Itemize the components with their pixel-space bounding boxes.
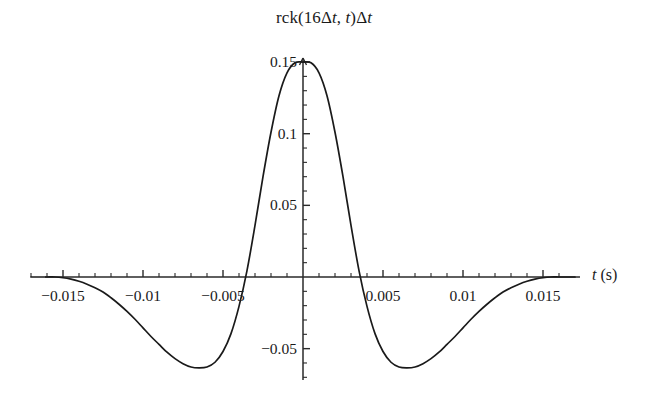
y-tick-label: 0.1 [278,126,297,142]
x-tick-label: −0.015 [41,288,85,304]
x-tick-label: 0.005 [366,288,401,304]
x-axis-label-unit: (s) [600,266,617,283]
plot-canvas [0,0,648,402]
x-axis-label: t (s) [592,266,617,284]
x-tick-label: −0.005 [201,288,245,304]
x-axis-label-var: t [592,266,596,283]
y-tick-label: 0.15 [270,54,297,70]
x-tick-label: −0.01 [125,288,161,304]
y-tick-label: 0.05 [270,198,297,214]
chart-figure: rck(16Δt, t)Δt −0.015−0.01−0.0050.0050.0… [0,0,648,402]
x-tick-label: 0.015 [526,288,561,304]
y-tick-label: −0.05 [261,341,297,357]
axes-group [45,58,580,380]
ticks-group [31,62,559,377]
x-tick-label: 0.01 [449,288,476,304]
